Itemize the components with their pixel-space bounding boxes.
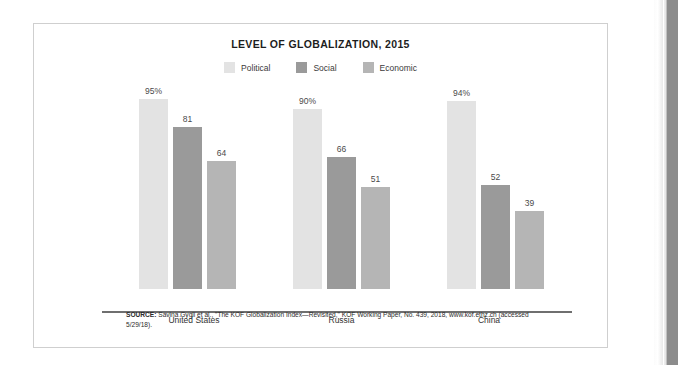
bar-rect [139, 99, 168, 289]
legend-item-economic: Economic [363, 62, 417, 73]
chart-legend: Political Social Economic [34, 62, 607, 73]
bar-social-russia: 66 [327, 89, 356, 289]
bar-social-china: 52 [481, 89, 510, 289]
bar-value-label: 64 [217, 148, 226, 158]
bar-rect [293, 109, 322, 289]
bar-value-label: 94% [453, 88, 470, 98]
bar-rect [173, 127, 202, 289]
bar-rect [515, 211, 544, 289]
source-prefix: SOURCE: [126, 311, 156, 318]
legend-item-political: Political [224, 62, 270, 73]
bar-political-russia: 90% [293, 89, 322, 289]
bar-value-label: 81 [183, 114, 192, 124]
bar-groups: 95%816490%665194%5239 [139, 89, 544, 289]
bar-rect [327, 157, 356, 289]
bar-value-label: 39 [525, 198, 534, 208]
bar-value-label: 52 [491, 172, 500, 182]
bar-economic-united-states: 64 [207, 89, 236, 289]
bar-economic-russia: 51 [361, 89, 390, 289]
legend-swatch-political [224, 62, 235, 73]
bar-political-united-states: 95% [139, 89, 168, 289]
page-edge-shadow [654, 0, 663, 365]
bar-value-label: 90% [299, 96, 316, 106]
source-note: SOURCE: Savina Gygli et al., "The KOF Gl… [126, 310, 546, 330]
bar-group-united-states: 95%8164 [139, 89, 236, 289]
legend-label-political: Political [241, 63, 270, 73]
bar-value-label: 95% [145, 86, 162, 96]
legend-item-social: Social [296, 62, 336, 73]
legend-swatch-economic [363, 62, 374, 73]
bar-group-china: 94%5239 [447, 89, 544, 289]
bar-value-label: 66 [337, 144, 346, 154]
page-edge-strip [663, 0, 678, 365]
bar-rect [361, 187, 390, 289]
bar-social-united-states: 81 [173, 89, 202, 289]
figure-card: LEVEL OF GLOBALIZATION, 2015 Political S… [33, 23, 608, 348]
bar-group-russia: 90%6651 [293, 89, 390, 289]
legend-label-social: Social [313, 63, 336, 73]
bar-political-china: 94% [447, 89, 476, 289]
plot-area: 95%816490%665194%5239 [139, 89, 544, 289]
bar-rect [207, 161, 236, 289]
source-text: Savina Gygli et al., "The KOF Globalizat… [126, 311, 529, 328]
bar-value-label: 51 [371, 174, 380, 184]
bar-rect [447, 101, 476, 289]
legend-swatch-social [296, 62, 307, 73]
bar-rect [481, 185, 510, 289]
legend-label-economic: Economic [380, 63, 417, 73]
chart-title: LEVEL OF GLOBALIZATION, 2015 [34, 38, 607, 50]
bar-economic-china: 39 [515, 89, 544, 289]
